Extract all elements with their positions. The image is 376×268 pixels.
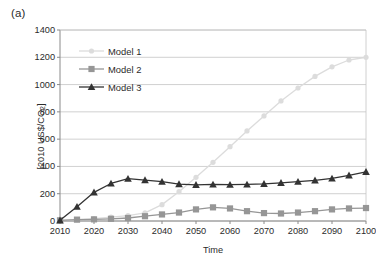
square-marker xyxy=(210,204,216,210)
square-marker xyxy=(363,205,369,211)
circle-marker xyxy=(295,85,300,90)
circle-marker xyxy=(227,144,232,149)
square-marker xyxy=(346,205,352,211)
square-marker xyxy=(159,211,165,217)
circle-marker xyxy=(278,98,283,103)
legend-triangle-icon xyxy=(79,81,104,93)
circle-marker xyxy=(329,64,334,69)
legend-square-icon xyxy=(79,63,104,75)
square-marker xyxy=(329,206,335,212)
circle-marker xyxy=(261,113,266,118)
legend-item-model-2[interactable]: Model 2 xyxy=(79,60,187,78)
circle-marker xyxy=(312,74,317,79)
square-marker xyxy=(227,205,233,211)
series-model-3 xyxy=(56,168,370,223)
circle-marker xyxy=(193,175,198,180)
square-marker xyxy=(244,208,250,214)
square-marker xyxy=(176,209,182,215)
square-marker xyxy=(261,210,267,216)
circle-marker xyxy=(210,160,215,165)
square-marker xyxy=(142,213,148,219)
square-marker xyxy=(278,210,284,216)
series-line xyxy=(60,172,366,220)
triangle-marker xyxy=(362,168,370,175)
legend-item-model-3[interactable]: Model 3 xyxy=(79,78,187,96)
circle-marker xyxy=(363,55,368,60)
square-marker xyxy=(312,208,318,214)
legend-label: Model 3 xyxy=(108,82,141,93)
circle-marker xyxy=(244,128,249,133)
legend-circle-icon xyxy=(79,45,104,57)
circle-marker xyxy=(89,48,94,53)
square-marker xyxy=(91,216,97,222)
triangle-marker xyxy=(90,189,98,196)
legend: Model 1Model 2Model 3 xyxy=(79,42,187,96)
square-marker xyxy=(125,215,131,221)
square-marker xyxy=(108,216,114,222)
circle-marker xyxy=(176,189,181,194)
square-marker xyxy=(88,66,94,72)
circle-marker xyxy=(346,57,351,62)
legend-label: Model 1 xyxy=(108,46,141,57)
square-marker xyxy=(295,209,301,215)
square-marker xyxy=(193,206,199,212)
circle-marker xyxy=(159,202,164,207)
legend-item-model-1[interactable]: Model 1 xyxy=(79,42,187,60)
legend-label: Model 2 xyxy=(108,64,141,75)
square-marker xyxy=(74,217,80,223)
